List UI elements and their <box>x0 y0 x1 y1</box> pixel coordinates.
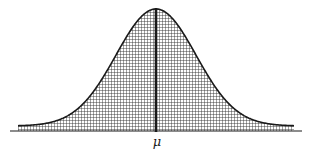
mean-label: μ <box>150 134 164 149</box>
normal-curve-figure <box>0 0 311 155</box>
